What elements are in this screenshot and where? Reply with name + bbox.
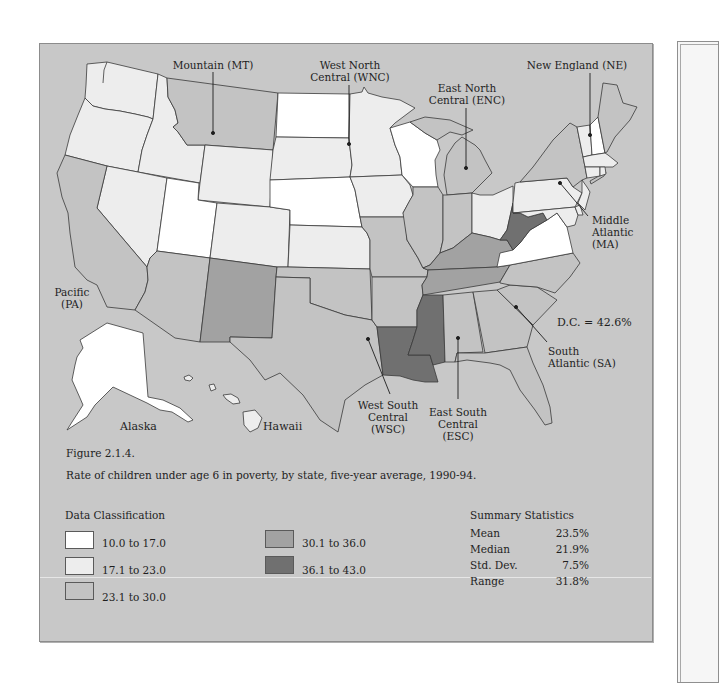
state-michigan-lower (444, 137, 492, 195)
pointer-dot-middle-atlantic (558, 181, 561, 184)
legend-label-class-2: 17.1 to 23.0 (102, 563, 166, 577)
legend-swatch-class-4 (265, 530, 294, 548)
state-maine (598, 83, 637, 153)
dc-value-note: D.C. = 42.6% (557, 317, 632, 329)
region-label-line: Central (358, 411, 418, 423)
state-colorado (210, 203, 290, 267)
state-hawaii-big-island (243, 410, 262, 432)
pointer-dot-south-atlantic (514, 305, 517, 308)
figure-number: Figure 2.1.4. (66, 446, 135, 460)
legend-swatch-class-3 (65, 582, 94, 600)
region-label-line: Middle (592, 214, 633, 226)
region-label-east-south-central: East South Central (ESC) (429, 406, 487, 442)
legend-swatch-class-5 (265, 556, 294, 574)
summary-row-mean: Mean 23.5% (470, 526, 589, 540)
region-label-line: Mountain (MT) (173, 59, 253, 71)
region-label-line: East South (429, 406, 487, 418)
pointer-dot-east-north-central (464, 166, 467, 169)
state-new-york (520, 123, 587, 187)
region-label-mountain: Mountain (MT) (173, 59, 253, 71)
region-label-east-north-central: East North Central (ENC) (429, 82, 505, 106)
state-rhode-island (600, 167, 606, 176)
inset-label-alaska: Alaska (120, 421, 157, 433)
summary-label: Median (470, 542, 510, 556)
state-montana (167, 78, 278, 150)
region-label-line: West North (310, 59, 389, 71)
summary-row-std-dev: Std. Dev. 7.5% (470, 558, 589, 572)
region-label-south-atlantic: South Atlantic (SA) (548, 345, 616, 369)
summary-row-range: Range 31.8% (470, 574, 589, 588)
state-connecticut (585, 167, 600, 178)
pointer-dot-west-north-central (347, 142, 350, 145)
region-label-line: Atlantic (SA) (548, 357, 616, 369)
summary-value: 31.8% (556, 574, 589, 588)
legend-swatch-class-2 (65, 557, 94, 575)
state-new-mexico (200, 258, 277, 342)
pointer-dot-mountain (211, 131, 214, 134)
region-label-line: Central (ENC) (429, 94, 505, 106)
state-kansas (288, 225, 370, 269)
legend-label-class-4: 30.1 to 36.0 (302, 536, 366, 550)
state-hawaii-oahu (209, 384, 216, 391)
region-label-line: Pacific (55, 286, 90, 298)
region-label-line: Atlantic (592, 226, 633, 238)
state-alaska (67, 323, 193, 430)
legend-swatch-class-1 (65, 531, 94, 549)
region-label-line: (PA) (55, 298, 90, 310)
region-label-line: East North (429, 82, 505, 94)
region-label-west-south-central: West South Central (WSC) (358, 399, 418, 435)
region-label-line: Central (429, 418, 487, 430)
legend-label-class-3: 23.1 to 30.0 (102, 590, 166, 604)
state-hawaii-kauai (184, 375, 193, 381)
state-wyoming (198, 145, 273, 207)
summary-value: 23.5% (556, 526, 589, 540)
state-iowa (350, 175, 413, 217)
region-label-line: West South (358, 399, 418, 411)
region-label-new-england: New England (NE) (527, 59, 627, 71)
region-label-middle-atlantic: Middle Atlantic (MA) (592, 214, 633, 250)
legend-label-class-5: 36.1 to 43.0 (302, 563, 366, 577)
adjacent-panel-inner-border (680, 44, 718, 682)
state-south-dakota (270, 137, 352, 180)
legend-label-class-1: 10.0 to 17.0 (102, 536, 166, 550)
legend-title: Data Classification (65, 508, 165, 522)
region-label-line: New England (NE) (527, 59, 627, 71)
summary-title: Summary Statistics (470, 508, 574, 522)
inset-label-hawaii: Hawaii (263, 421, 302, 433)
summary-value: 7.5% (562, 558, 589, 572)
region-label-line: South (548, 345, 616, 357)
region-label-pacific: Pacific (PA) (55, 286, 90, 310)
region-label-line: (WSC) (358, 423, 418, 435)
summary-label: Range (470, 574, 504, 588)
pointer-dot-east-south-central (456, 336, 459, 339)
summary-value: 21.9% (556, 542, 589, 556)
pointer-dot-new-england (588, 133, 591, 136)
state-north-dakota (276, 93, 350, 138)
summary-row-median: Median 21.9% (470, 542, 589, 556)
summary-label: Std. Dev. (470, 558, 517, 572)
region-label-line: Central (WNC) (310, 71, 389, 83)
pointer-dot-west-south-central (366, 337, 369, 340)
region-label-west-north-central: West North Central (WNC) (310, 59, 389, 83)
region-label-line: (MA) (592, 238, 633, 250)
state-hawaii-molokai-maui (223, 394, 240, 404)
summary-label: Mean (470, 526, 500, 540)
figure-caption: Rate of children under age 6 in poverty,… (66, 468, 476, 482)
region-label-line: (ESC) (429, 430, 487, 442)
